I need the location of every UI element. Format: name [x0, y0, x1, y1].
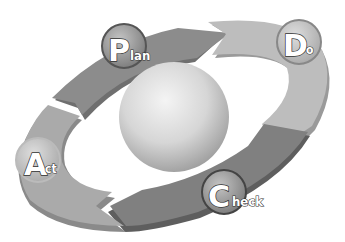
act-rest: ct: [45, 162, 57, 176]
do-rest: o: [306, 43, 313, 57]
center-sphere: [119, 62, 229, 172]
plan-initial: P: [108, 33, 130, 68]
check-initial: C: [208, 179, 230, 214]
plan-rest: lan: [130, 48, 150, 63]
plan-badge: P lan: [102, 24, 150, 68]
do-badge: D o: [277, 20, 321, 64]
check-rest: heck: [232, 194, 263, 209]
pdca-diagram: P lan D o A ct C heck: [0, 0, 345, 242]
do-initial: D: [283, 28, 308, 63]
act-badge: A ct: [16, 138, 60, 182]
